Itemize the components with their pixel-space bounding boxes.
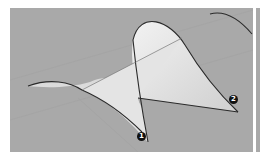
adjacent-panel-edge <box>256 8 260 152</box>
3d-viewport[interactable]: 1 2 <box>10 8 253 152</box>
point-marker-1[interactable]: 1 <box>137 132 146 141</box>
surface-render <box>10 8 253 152</box>
point-marker-2[interactable]: 2 <box>229 95 238 104</box>
